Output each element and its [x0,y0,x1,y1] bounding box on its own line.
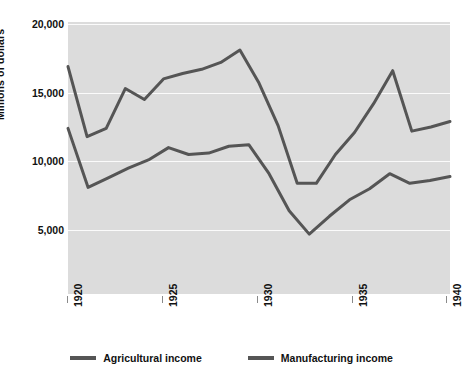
x-tick-label-1935: 1935 [357,284,369,307]
y-tick-label-10000: 10,000 [0,155,64,167]
legend-label-manufacturing: Manufacturing income [281,352,393,364]
x-tick-label-1930: 1930 [262,284,274,307]
x-tick-mark-1940 [446,296,447,303]
x-tick-mark-1935 [352,296,353,303]
y-tick-label-15000: 15,000 [0,87,64,99]
x-tick-mark-1930 [257,296,258,303]
line-manufacturing-income [68,50,450,183]
legend-item-manufacturing: Manufacturing income [248,352,393,364]
legend-item-agricultural: Agricultural income [70,352,202,364]
line-agricultural-income [68,128,450,234]
chart-legend: Agricultural income Manufacturing income [0,352,463,364]
series-layer [0,0,463,377]
x-tick-label-1920: 1920 [72,284,84,307]
x-tick-mark-1925 [162,296,163,303]
y-tick-label-20000: 20,000 [0,18,64,30]
legend-swatch-icon [248,356,274,360]
x-tick-mark-1920 [67,296,68,303]
x-tick-label-1925: 1925 [167,284,179,307]
chart-figure: the economy of the which is the reconver… [0,0,463,377]
y-tick-label-5000: 5,000 [0,224,64,236]
x-tick-label-1940: 1940 [451,284,463,307]
legend-swatch-icon [70,356,96,360]
y-axis: Millions of dollars 20,000 15,000 10,000… [0,0,64,377]
legend-label-agricultural: Agricultural income [103,352,202,364]
